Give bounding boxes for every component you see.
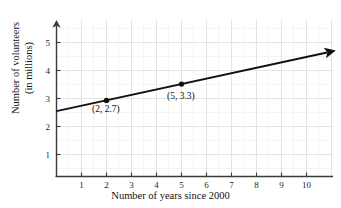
data-point-label-1: (2, 2.7) (92, 104, 120, 114)
y-axis-title-line-2: (in millions) (22, 0, 35, 138)
axis-lines (56, 26, 334, 177)
x-tick-label-9: 9 (279, 181, 284, 190)
trend-line (57, 53, 328, 112)
y-tick-label-3: 3 (38, 94, 50, 103)
y-tick-label-5: 5 (38, 38, 50, 47)
y-axis-title: Number of volunteers (in millions) (9, 0, 35, 138)
x-tick-label-5: 5 (179, 181, 184, 190)
data-point-label-2: (5, 3.3) (167, 91, 195, 101)
x-axis-title: Number of years since 2000 (0, 190, 341, 202)
data-point-marker (179, 81, 184, 86)
x-tick-label-1: 1 (79, 181, 84, 190)
x-tick-label-6: 6 (204, 181, 209, 190)
x-tick-label-8: 8 (254, 181, 259, 190)
plot-canvas (0, 0, 341, 208)
x-tick-label-7: 7 (229, 181, 234, 190)
y-tick-label-2: 2 (38, 122, 50, 131)
y-tick-label-4: 4 (38, 66, 50, 75)
y-tick-label-1: 1 (38, 150, 50, 159)
y-axis-title-line-1: Number of volunteers (9, 0, 22, 138)
x-tick-label-10: 10 (302, 181, 311, 190)
x-tick-label-4: 4 (154, 181, 159, 190)
scatter-plot-figure: 1 2 3 4 5 6 7 8 9 10 5 4 3 2 1 (2, 2.7) … (0, 0, 341, 208)
data-point-marker (104, 98, 109, 103)
x-tick-label-2: 2 (104, 181, 109, 190)
x-tick-label-3: 3 (129, 181, 134, 190)
